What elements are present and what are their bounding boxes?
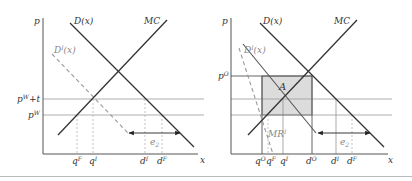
x-tick-do: dO — [306, 155, 317, 166]
po-label: pO — [218, 70, 229, 81]
x-tick-qo: qO — [255, 155, 266, 166]
x-tick-qf: qF — [72, 155, 83, 166]
e2-label: e2 — [150, 137, 159, 148]
trade-policy-diagram: p x D(x) MC DI(x) pW+t pW qF qI dI dF e2 — [0, 0, 412, 181]
x-tick-qi: qI — [89, 155, 98, 166]
demand-label: D(x) — [73, 16, 94, 26]
domestic-demand-curve — [52, 54, 128, 133]
x-tick-di-right: dI — [331, 155, 340, 166]
right-panel: p x D(x) MC DI(x) MRI pO A qO qF qI dO d… — [218, 16, 393, 166]
y-axis-label-right: p — [222, 16, 228, 26]
mc-label: MC — [143, 16, 160, 26]
pw-plus-t-label: pW+t — [17, 93, 40, 104]
x-tick-qi-right: qI — [280, 155, 289, 166]
marginal-cost-curve — [58, 20, 167, 135]
x-tick-df: dF — [157, 155, 168, 166]
x-axis-label: x — [200, 155, 205, 165]
mr-label: MRI — [267, 128, 287, 139]
y-axis-label: p — [34, 16, 40, 26]
x-axis-label-right: x — [388, 155, 393, 165]
domestic-demand-label-right: DI(x) — [243, 44, 266, 55]
area-a-label: A — [278, 81, 286, 92]
demand-curve — [70, 23, 194, 147]
pw-label: pW — [28, 109, 41, 120]
left-panel: p x D(x) MC DI(x) pW+t pW qF qI dI dF e2 — [17, 16, 205, 166]
domestic-demand-label: DI(x) — [53, 44, 76, 55]
mc-label-right: MC — [333, 16, 350, 26]
area-a — [262, 76, 312, 115]
x-tick-qf-right: qF — [266, 155, 277, 166]
e2-label-right: e2 — [340, 137, 349, 148]
demand-label-right: D(x) — [262, 16, 283, 26]
x-tick-df-right: dF — [347, 155, 358, 166]
x-tick-di: dI — [140, 155, 149, 166]
